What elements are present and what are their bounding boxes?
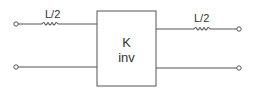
output-terminal-top	[237, 27, 241, 31]
block-label-k: K	[97, 36, 156, 49]
inductor-left-label: L/2	[45, 9, 60, 20]
inductor-right-icon	[194, 28, 210, 31]
block-label-inv: inv	[97, 51, 156, 64]
output-terminal-bottom	[237, 66, 241, 70]
inductor-left-icon	[42, 23, 58, 26]
input-terminal-bottom	[14, 65, 18, 69]
input-terminal-top	[14, 22, 18, 26]
inductor-right-label: L/2	[194, 13, 209, 24]
